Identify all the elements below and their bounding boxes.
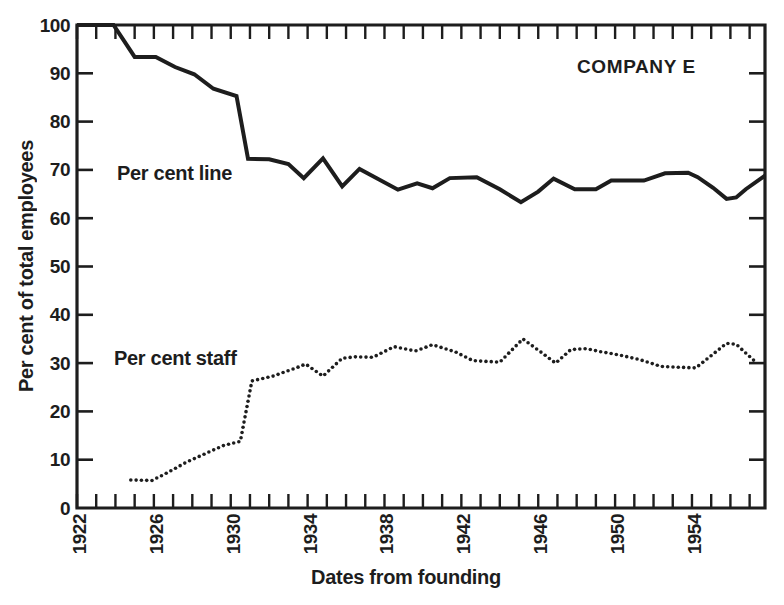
percent-staff-dot — [744, 351, 748, 355]
percent-staff-dot — [740, 348, 744, 352]
percent-staff-dot — [726, 342, 730, 346]
y-tick-label: 60 — [50, 208, 70, 229]
percent-staff-dot — [748, 355, 752, 359]
percent-staff-dot — [246, 399, 250, 403]
company-e-employment-chart: 0102030405060708090100192219261930193419… — [0, 0, 784, 605]
x-tick-label: 1950 — [607, 514, 628, 554]
x-tick-label: 1946 — [530, 514, 551, 554]
percent-staff-dot — [615, 353, 619, 357]
y-tick-label: 30 — [50, 353, 70, 374]
percent-staff-dot — [503, 355, 507, 359]
percent-staff-dot — [469, 358, 473, 362]
percent-staff-dot — [507, 351, 511, 355]
percent-staff-dot — [306, 364, 310, 368]
percent-staff-dot — [484, 360, 488, 364]
percent-staff-dot — [514, 344, 518, 348]
percent-staff-dot — [374, 354, 378, 358]
percent-staff-dot — [713, 351, 717, 355]
percent-staff-dot — [301, 363, 305, 367]
percent-staff-dot — [635, 357, 639, 361]
percent-staff-dot — [266, 376, 270, 380]
axis-frame — [77, 25, 765, 508]
percent-staff-dot — [241, 425, 245, 429]
percent-staff-dot — [620, 354, 624, 358]
percent-staff-dot — [251, 379, 255, 383]
percent-staff-dot — [271, 374, 275, 378]
percent-staff-dot — [286, 369, 290, 373]
percent-staff-dot — [526, 341, 530, 345]
percent-staff-dot — [248, 389, 252, 393]
percent-staff-dot — [217, 446, 221, 450]
percent-staff-dot — [202, 452, 206, 456]
percent-staff-dot — [568, 349, 572, 353]
percent-staff-dot — [178, 464, 182, 468]
chart-canvas: 0102030405060708090100192219261930193419… — [0, 0, 784, 605]
percent-staff-dot — [676, 365, 680, 369]
y-tick-label: 100 — [40, 15, 70, 36]
percent-staff-dot — [343, 356, 347, 360]
percent-staff-dot — [424, 345, 428, 349]
percent-staff-dot — [479, 359, 483, 363]
x-tick-label: 1926 — [146, 514, 167, 554]
percent-staff-dot — [459, 353, 463, 357]
percent-staff-dot — [640, 359, 644, 363]
percent-staff-dot — [227, 443, 231, 447]
x-tick-label: 1938 — [376, 514, 397, 554]
percent-staff-dot — [193, 457, 197, 461]
percent-staff-dot — [589, 348, 593, 352]
percent-staff-dot — [155, 476, 159, 480]
percent-staff-dot — [722, 344, 726, 348]
percent-staff-dot — [310, 367, 314, 371]
x-tick-label: 1930 — [223, 514, 244, 554]
percent-staff-dot — [731, 342, 735, 346]
percent-staff-dot — [419, 347, 423, 351]
y-tick-label: 90 — [50, 63, 70, 84]
percent-staff-dot — [655, 363, 659, 367]
percent-staff-dot — [409, 348, 413, 352]
x-tick-label: 1942 — [453, 514, 474, 554]
y-tick-label: 40 — [50, 304, 70, 325]
percent-staff-dot — [454, 350, 458, 354]
percent-staff-dot — [539, 350, 543, 354]
percent-staff-dot — [511, 348, 515, 352]
percent-staff-dot — [752, 358, 756, 362]
percent-staff-dot — [150, 479, 154, 483]
percent-staff-dot — [645, 360, 649, 364]
percent-staff-dot — [499, 359, 503, 363]
percent-staff-dot — [522, 338, 526, 342]
percent-staff-dot — [434, 344, 438, 348]
percent-staff-dot — [718, 347, 722, 351]
percent-staff-dot — [531, 344, 535, 348]
percent-staff-dot — [687, 366, 691, 370]
percent-staff-dot — [140, 478, 144, 482]
percent-staff-dot — [240, 431, 244, 435]
percent-staff-dot — [709, 354, 713, 358]
percent-staff-dot — [323, 373, 327, 377]
line-series-label: Per cent line — [117, 162, 232, 185]
percent-staff-dot — [650, 362, 654, 366]
percent-staff-dot — [327, 369, 331, 373]
percent-staff-dot — [379, 351, 383, 355]
x-axis-title: Dates from founding — [311, 566, 501, 589]
y-tick-label: 10 — [50, 449, 70, 470]
percent-staff-dot — [697, 364, 701, 368]
percent-staff-dot — [564, 352, 568, 356]
y-axis-title: Per cent of total employees — [10, 25, 42, 508]
percent-staff-dot — [736, 344, 740, 348]
percent-staff-dot — [232, 441, 236, 445]
percent-staff-dot — [609, 352, 613, 356]
percent-staff-dot — [399, 346, 403, 350]
percent-staff-dot — [145, 479, 149, 483]
percent-staff-dot — [560, 356, 564, 360]
percent-staff-dot — [389, 347, 393, 351]
x-tick-label: 1922 — [69, 514, 90, 554]
percent-staff-dot — [169, 469, 173, 473]
percent-staff-dot — [197, 455, 201, 459]
percent-staff-dot — [237, 440, 241, 444]
percent-staff-dot — [245, 405, 249, 409]
percent-staff-dot — [444, 347, 448, 351]
percent-staff-dot — [239, 436, 243, 440]
percent-staff-dot — [573, 348, 577, 352]
percent-staff-dot — [599, 350, 603, 354]
percent-staff-dot — [705, 357, 709, 361]
